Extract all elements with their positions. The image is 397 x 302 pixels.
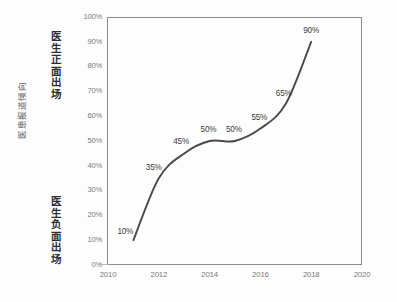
- x-tick-label: 2014: [193, 270, 227, 279]
- y-tick-label: 60%: [76, 111, 102, 120]
- y-tick-label: 0%: [76, 260, 102, 269]
- data-point-label: 55%: [251, 113, 267, 122]
- x-tick-label: 2018: [294, 270, 328, 279]
- chart-figure: 医患报道倾向 医生正面出场 医生负面出场 0%10%20%30%40%50%60…: [0, 0, 397, 302]
- pole-label-char: 场: [48, 89, 63, 101]
- y-tick-label: 100%: [76, 12, 102, 21]
- y-axis-pole-negative-label: 医生负面出场: [48, 196, 63, 266]
- pole-label-char: 场: [48, 254, 63, 266]
- data-point-label: 50%: [226, 125, 242, 134]
- y-tick-label: 80%: [76, 61, 102, 70]
- y-axis-title: 医患报道倾向: [15, 65, 27, 155]
- x-tick-label: 2010: [91, 270, 125, 279]
- data-point-label: 90%: [303, 26, 319, 35]
- data-point-label: 50%: [201, 125, 217, 134]
- x-tick-label: 2012: [142, 270, 176, 279]
- y-tick-label: 90%: [76, 37, 102, 46]
- y-tick-label: 70%: [76, 86, 102, 95]
- data-point-label: 10%: [117, 227, 133, 236]
- y-tick-label: 30%: [76, 185, 102, 194]
- x-axis-extension-line: [100, 264, 108, 265]
- data-point-label: 45%: [173, 137, 189, 146]
- plot-area-frame: [108, 17, 362, 265]
- x-tick-label: 2020: [345, 270, 379, 279]
- data-point-label: 35%: [146, 163, 162, 172]
- y-tick-label: 50%: [76, 136, 102, 145]
- pole-label-char: 医: [48, 31, 63, 43]
- x-tick-label: 2016: [243, 270, 277, 279]
- y-tick-label: 40%: [76, 161, 102, 170]
- data-point-label: 65%: [276, 89, 292, 98]
- y-tick-label: 20%: [76, 210, 102, 219]
- pole-label-char: 医: [48, 196, 63, 208]
- y-tick-label: 10%: [76, 235, 102, 244]
- y-axis-pole-positive-label: 医生正面出场: [48, 31, 63, 101]
